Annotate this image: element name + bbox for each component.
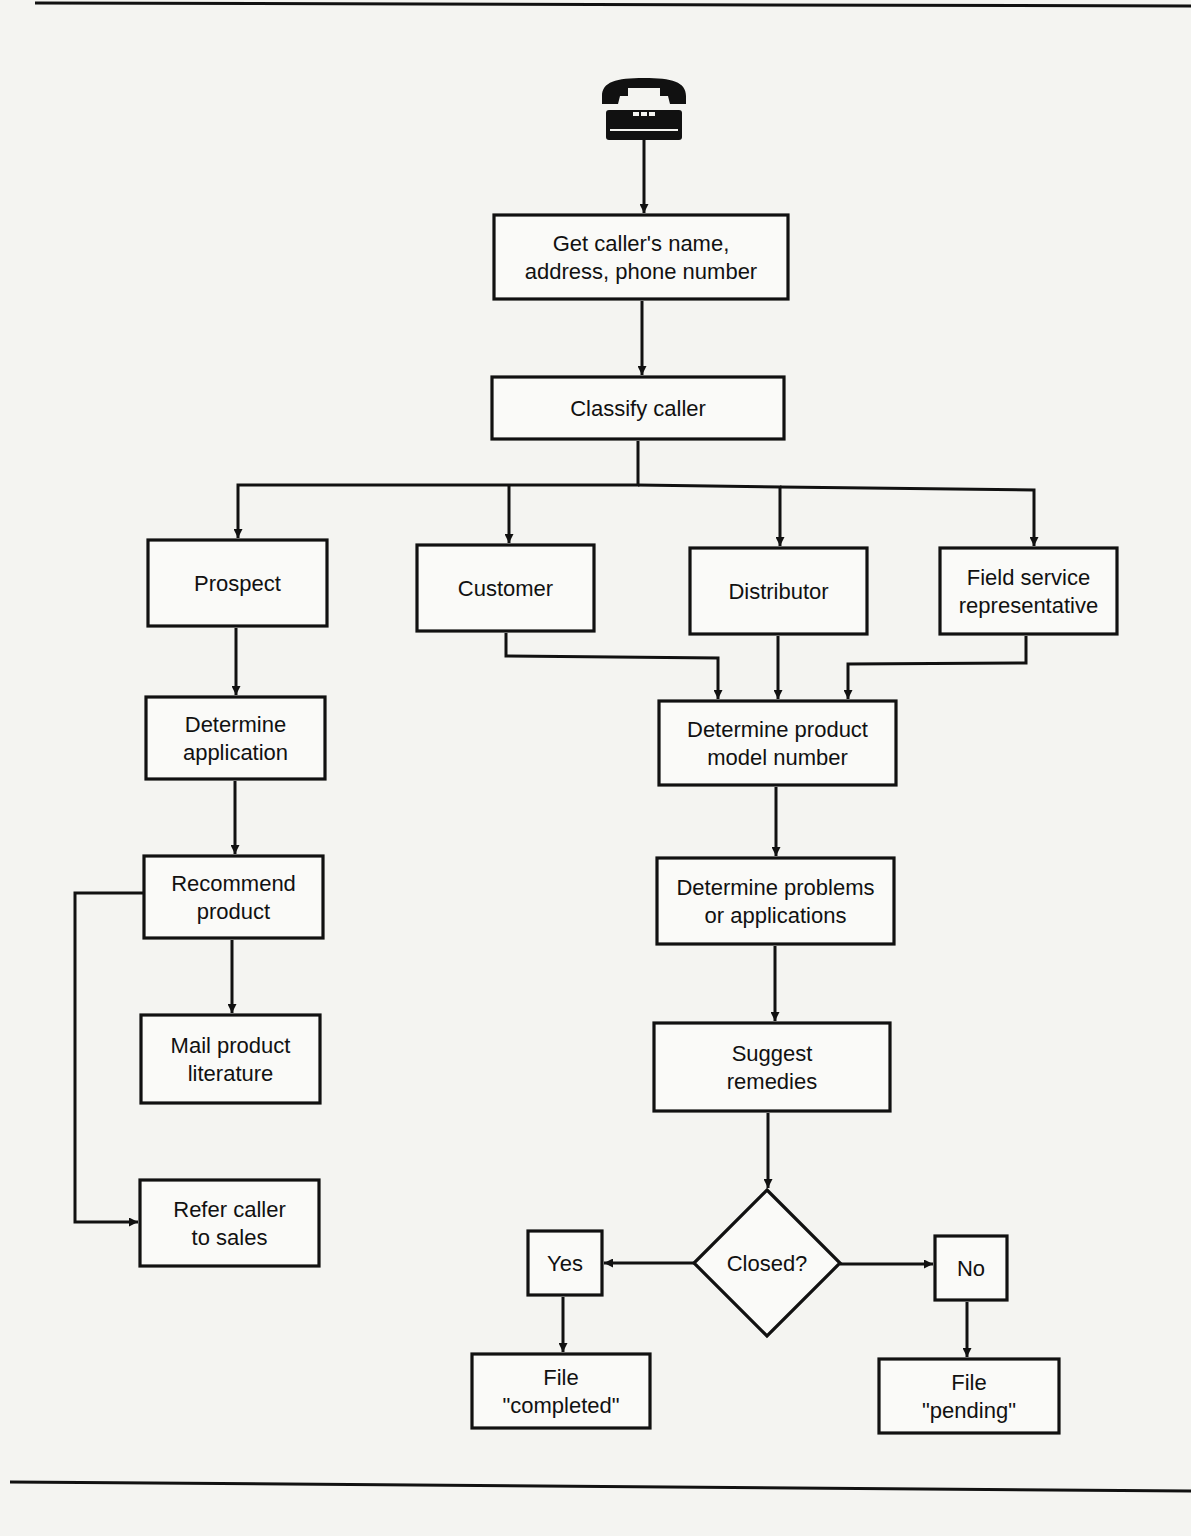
node-label-line: remedies <box>727 1069 817 1094</box>
node-label-line: literature <box>188 1061 274 1086</box>
node-label-line: "pending" <box>922 1398 1016 1423</box>
node-file-completed: File"completed" <box>472 1354 650 1428</box>
edge-field-rep-to-det-model <box>848 636 1026 699</box>
node-label-line: address, phone number <box>525 259 757 284</box>
node-label-line: Refer caller <box>173 1197 285 1222</box>
node-customer: Customer <box>417 545 594 631</box>
node-label-line: Get caller's name, <box>553 231 730 256</box>
top-rule <box>35 3 1191 6</box>
node-det-application: Determineapplication <box>146 697 325 779</box>
node-file-pending: File"pending" <box>879 1359 1059 1433</box>
process-box <box>144 856 323 938</box>
process-box <box>140 1180 319 1266</box>
node-distributor: Distributor <box>690 548 867 634</box>
node-label-line: product <box>197 899 270 924</box>
node-label-line: File <box>951 1370 986 1395</box>
node-label-line: Mail product <box>171 1033 291 1058</box>
node-label-line: Determine product <box>687 717 868 742</box>
node-label-line: Field service <box>967 565 1090 590</box>
node-label-line: model number <box>707 745 848 770</box>
edge-customer-to-det-model <box>506 633 718 699</box>
edge-classify-to-distributor <box>638 485 780 546</box>
edge-classify-to-prospect <box>238 441 638 538</box>
node-label-line: Distributor <box>728 579 828 604</box>
node-label-line: Recommend <box>171 871 296 896</box>
edge-recommend-to-refer-sales <box>75 893 144 1222</box>
process-box <box>659 701 896 785</box>
process-box <box>657 858 894 944</box>
node-get-info: Get caller's name,address, phone number <box>494 215 788 299</box>
node-suggest: Suggestremedies <box>654 1023 890 1111</box>
node-label-line: to sales <box>192 1225 268 1250</box>
node-label-line: or applications <box>705 903 847 928</box>
process-box <box>494 215 788 299</box>
node-no: No <box>935 1236 1007 1300</box>
bottom-rule <box>10 1482 1191 1491</box>
telephone-icon <box>602 78 686 140</box>
nodes-layer: Get caller's name,address, phone numberC… <box>140 215 1117 1433</box>
process-box <box>146 697 325 779</box>
node-label-line: Classify caller <box>570 396 706 421</box>
node-label-line: Determine problems <box>676 875 874 900</box>
node-label-line: Prospect <box>194 571 281 596</box>
process-box <box>654 1023 890 1111</box>
node-yes: Yes <box>528 1231 602 1295</box>
node-label-line: Suggest <box>732 1041 813 1066</box>
node-recommend: Recommendproduct <box>144 856 323 938</box>
edge-classify-to-field-rep <box>780 487 1034 546</box>
node-prospect: Prospect <box>148 540 327 626</box>
node-label-line: application <box>183 740 288 765</box>
node-label-line: No <box>957 1256 985 1281</box>
node-field-rep: Field servicerepresentative <box>940 548 1117 634</box>
node-refer-sales: Refer callerto sales <box>140 1180 319 1266</box>
node-label-line: Customer <box>458 576 553 601</box>
process-box <box>141 1015 320 1103</box>
node-det-model: Determine productmodel number <box>659 701 896 785</box>
node-closed: Closed? <box>694 1190 840 1336</box>
node-label-line: Determine <box>185 712 286 737</box>
node-label-line: Closed? <box>727 1251 808 1276</box>
process-box <box>940 548 1117 634</box>
node-label-line: File <box>543 1365 578 1390</box>
node-classify: Classify caller <box>492 377 784 439</box>
node-det-problems: Determine problemsor applications <box>657 858 894 944</box>
node-label-line: "completed" <box>502 1393 619 1418</box>
node-mail-lit: Mail productliterature <box>141 1015 320 1103</box>
flowchart-canvas: Get caller's name,address, phone numberC… <box>0 0 1191 1536</box>
node-label-line: Yes <box>547 1251 583 1276</box>
node-label-line: representative <box>959 593 1098 618</box>
